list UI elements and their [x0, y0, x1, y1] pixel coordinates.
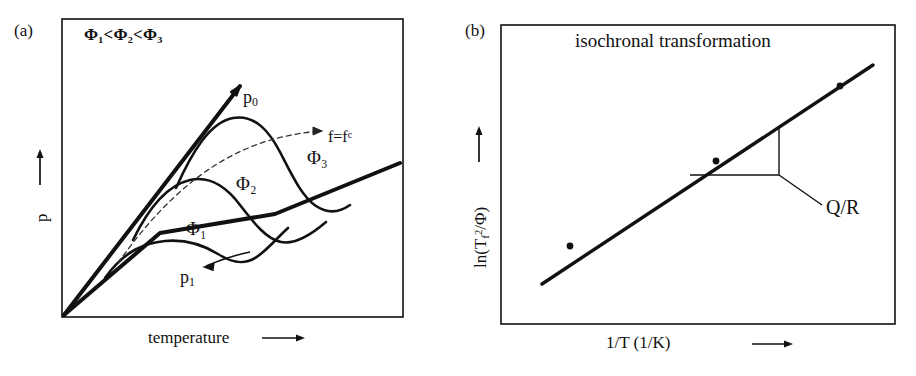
- y-axis-label-b-post: /Φ): [471, 207, 490, 230]
- data-point: [567, 243, 574, 250]
- curve-p0-line: [64, 86, 240, 315]
- bound-label-p1-sub: 1: [189, 275, 195, 289]
- bound-label-p0-sub: 0: [252, 95, 258, 109]
- panel-a-plot: [0, 0, 460, 376]
- plot-title-b: isochronal transformation: [575, 31, 771, 50]
- curve-critical-fraction-arrowhead: [313, 127, 322, 135]
- panel-a: (a) Φ₁<Φ₂<Φ₃ p0 p1 f=fc Φ₁ Φ₂ Φ₃ tempera…: [0, 0, 460, 376]
- critical-fraction-label-sup: c: [348, 129, 352, 140]
- curve-label-phi2: Φ₂: [236, 174, 257, 193]
- x-axis-arrow-head-a: [296, 335, 305, 342]
- y-axis-label-a: p: [33, 214, 50, 223]
- y-axis-label-b-sup: 2: [473, 230, 484, 235]
- bound-label-p1: p1: [180, 268, 195, 289]
- critical-fraction-label-base: f=f: [328, 128, 348, 145]
- phi-ordering-annotation: Φ₁<Φ₂<Φ₃: [84, 26, 163, 43]
- curve-p1-line: [64, 163, 400, 315]
- y-axis-label-b: ln(Tf2/Φ): [472, 207, 491, 268]
- panel-tag-a: (a): [14, 22, 33, 39]
- x-axis-arrow-head-b: [784, 341, 793, 348]
- panel-b-plot: [460, 0, 916, 376]
- bound-label-p0-base: p: [243, 87, 252, 107]
- bound-label-p1-base: p: [180, 267, 189, 287]
- slope-label-leader-line: [779, 175, 822, 205]
- x-axis-label-b: 1/T (1/K): [606, 334, 670, 351]
- x-axis-label-a: temperature: [148, 329, 229, 346]
- figure-root: (a) Φ₁<Φ₂<Φ₃ p0 p1 f=fc Φ₁ Φ₂ Φ₃ tempera…: [0, 0, 916, 376]
- panel-tag-b: (b): [465, 22, 485, 39]
- y-axis-arrow-head-b: [476, 126, 483, 135]
- bound-label-p0: p0: [243, 88, 258, 109]
- curve-label-phi3: Φ₃: [307, 148, 328, 167]
- data-point: [837, 83, 844, 90]
- slope-label-qr: Q/R: [826, 197, 859, 217]
- critical-fraction-label: f=fc: [328, 129, 352, 145]
- data-point: [713, 158, 720, 165]
- curve-p0-arrowhead: [231, 86, 240, 96]
- y-axis-label-b-sub: f: [479, 235, 491, 239]
- y-axis-arrow-head-a: [37, 149, 44, 158]
- y-axis-label-b-pre: ln(T: [471, 239, 490, 268]
- curve-label-phi1: Φ₁: [186, 219, 207, 238]
- panel-b: (b) isochronal transformation Q/R 1/T (1…: [460, 0, 916, 376]
